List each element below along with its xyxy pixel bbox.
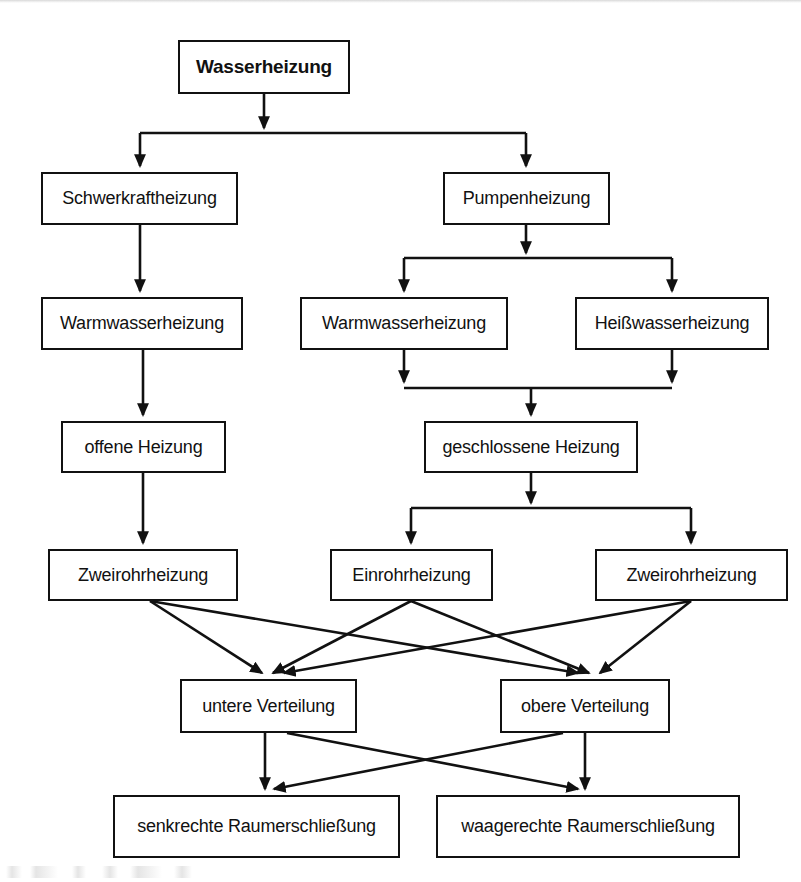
edge-zweirohr-links-to-untere — [150, 601, 262, 673]
page-edge-artifact — [6, 866, 306, 878]
node-warmwasserheizung-mitte[interactable]: Warmwasserheizung — [300, 297, 508, 350]
node-geschlossene-heizung[interactable]: geschlossene Heizung — [424, 421, 638, 473]
node-heisswasserheizung[interactable]: Heißwasserheizung — [575, 297, 769, 350]
edge-obere-to-senkrechte — [274, 733, 563, 789]
node-untere-verteilung[interactable]: untere Verteilung — [180, 679, 357, 733]
node-zweirohrheizung-links[interactable]: Zweirohrheizung — [48, 549, 238, 601]
node-wasserheizung[interactable]: Wasserheizung — [178, 40, 350, 94]
node-senkrechte-raumerschliessung[interactable]: senkrechte Raumerschließung — [113, 795, 400, 858]
node-waagerechte-raumerschliessung[interactable]: waagerechte Raumerschließung — [436, 795, 740, 858]
edge-untere-to-waagerechte — [287, 733, 578, 789]
node-label: waagerechte Raumerschließung — [455, 816, 721, 837]
node-offene-heizung[interactable]: offene Heizung — [61, 421, 226, 473]
node-label: Warmwasserheizung — [54, 313, 230, 334]
edge-zweirohr-rechts-to-untere — [284, 601, 691, 673]
node-label: offene Heizung — [79, 437, 209, 458]
edge-zweirohr-rechts-to-obere — [600, 601, 691, 673]
node-label: untere Verteilung — [196, 696, 341, 717]
diagram-canvas: Wasserheizung Schwerkraftheizung Pumpenh… — [0, 0, 801, 882]
node-schwerkraftheizung[interactable]: Schwerkraftheizung — [41, 172, 238, 225]
node-label: Schwerkraftheizung — [56, 188, 222, 209]
node-label: Warmwasserheizung — [316, 313, 492, 334]
node-obere-verteilung[interactable]: obere Verteilung — [500, 679, 670, 733]
node-label: Wasserheizung — [190, 56, 338, 78]
node-zweirohrheizung-rechts[interactable]: Zweirohrheizung — [595, 549, 788, 601]
node-label: Pumpenheizung — [457, 188, 597, 209]
edge-einrohr-to-obere — [411, 601, 589, 673]
node-label: Heißwasserheizung — [589, 313, 756, 334]
node-warmwasserheizung-links[interactable]: Warmwasserheizung — [41, 297, 243, 350]
edge-zweirohr-links-to-obere — [150, 601, 578, 673]
node-label: senkrechte Raumerschließung — [131, 816, 382, 837]
node-pumpenheizung[interactable]: Pumpenheizung — [443, 172, 610, 225]
node-label: Zweirohrheizung — [620, 565, 762, 586]
node-label: obere Verteilung — [515, 696, 655, 717]
node-einrohrheizung[interactable]: Einrohrheizung — [330, 549, 493, 601]
node-label: Einrohrheizung — [346, 565, 476, 586]
node-label: geschlossene Heizung — [436, 437, 625, 458]
node-label: Zweirohrheizung — [72, 565, 214, 586]
